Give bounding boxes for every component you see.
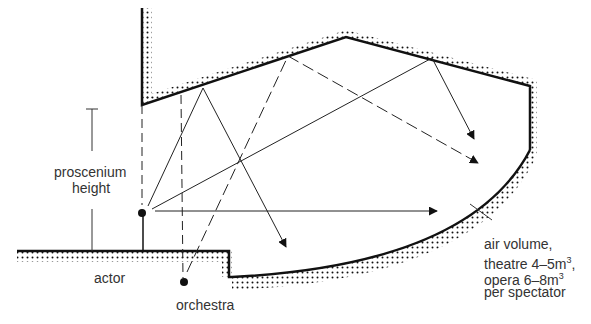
comma: , [572, 256, 576, 272]
proscenium-label-line1: proscenium [54, 164, 126, 180]
wall-hatching [17, 8, 537, 290]
superscript: 3 [559, 271, 564, 281]
actor-source-dot [138, 209, 146, 217]
air-volume-label-line1: air volume, [484, 236, 552, 252]
orchestra-source-dot [180, 278, 188, 286]
auditorium-section-diagram: proscenium height actor orchestra air vo… [0, 0, 591, 324]
air-volume-label-line4: per spectator [484, 284, 566, 300]
proscenium-label-line2: height [72, 180, 110, 196]
orchestra-label: orchestra [176, 297, 234, 313]
actor-label: actor [94, 270, 125, 286]
